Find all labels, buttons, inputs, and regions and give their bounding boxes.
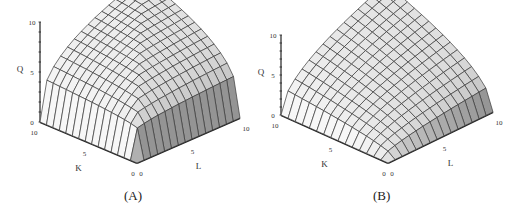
surface-mesh bbox=[40, 0, 240, 163]
svg-text:5: 5 bbox=[271, 72, 275, 80]
svg-text:5: 5 bbox=[191, 148, 195, 156]
surface-plot-b: 105010500510QKL bbox=[255, 0, 510, 217]
caption-a: (A) bbox=[124, 188, 142, 204]
svg-text:0: 0 bbox=[382, 170, 386, 178]
svg-text:10: 10 bbox=[496, 119, 504, 127]
l-axis-label: L bbox=[448, 158, 454, 168]
svg-text:0: 0 bbox=[131, 170, 135, 178]
q-axis-label: Q bbox=[258, 67, 265, 77]
q-axis-label: Q bbox=[17, 64, 24, 74]
panel-b: 105010500510QKL (B) bbox=[255, 0, 510, 217]
svg-text:5: 5 bbox=[443, 145, 447, 153]
svg-text:10: 10 bbox=[272, 122, 280, 130]
k-axis-label: K bbox=[321, 159, 328, 169]
svg-text:10: 10 bbox=[270, 32, 278, 40]
l-axis-label: L bbox=[196, 161, 202, 171]
svg-text:10: 10 bbox=[29, 19, 37, 27]
panel-a: 105010500510QKL (A) bbox=[0, 0, 255, 217]
svg-text:0: 0 bbox=[139, 170, 143, 178]
svg-text:10: 10 bbox=[31, 129, 39, 137]
caption-b: (B) bbox=[373, 188, 390, 204]
k-axis-label: K bbox=[75, 163, 82, 173]
svg-text:5: 5 bbox=[30, 69, 34, 77]
svg-text:10: 10 bbox=[243, 125, 251, 133]
svg-text:0: 0 bbox=[390, 170, 394, 178]
svg-text:0: 0 bbox=[271, 112, 275, 120]
svg-text:0: 0 bbox=[30, 119, 34, 127]
surface-plot-a: 105010500510QKL bbox=[0, 0, 255, 217]
svg-text:5: 5 bbox=[83, 150, 87, 158]
surface-mesh bbox=[281, 0, 493, 163]
svg-text:5: 5 bbox=[329, 146, 333, 154]
